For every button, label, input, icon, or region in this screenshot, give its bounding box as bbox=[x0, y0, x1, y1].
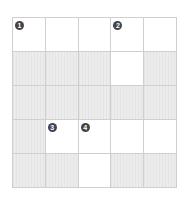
blocked-cell-r2c1 bbox=[13, 52, 46, 86]
clue-number-badge: 1 bbox=[15, 21, 24, 30]
blocked-cell-r5c1 bbox=[13, 154, 46, 188]
blocked-cell-r3c4 bbox=[111, 86, 144, 120]
grid-cell-r4c4[interactable] bbox=[111, 120, 144, 154]
blocked-cell-r5c4 bbox=[111, 154, 144, 188]
grid-cell-r4c5[interactable] bbox=[144, 120, 177, 154]
grid-cell-r2c4[interactable] bbox=[111, 52, 144, 86]
grid-cell-r4c2[interactable]: 3 bbox=[46, 120, 79, 154]
crossword-grid: 1 2 3 4 bbox=[12, 17, 177, 188]
blocked-cell-r2c2 bbox=[46, 52, 79, 86]
blocked-cell-r3c1 bbox=[13, 86, 46, 120]
blocked-cell-r4c1 bbox=[13, 120, 46, 154]
blocked-cell-r3c2 bbox=[46, 86, 79, 120]
blocked-cell-r2c3 bbox=[79, 52, 112, 86]
clue-number-badge: 3 bbox=[48, 123, 57, 132]
grid-cell-r5c3[interactable] bbox=[79, 154, 112, 188]
blocked-cell-r3c3 bbox=[79, 86, 112, 120]
grid-cell-r1c4[interactable]: 2 bbox=[111, 18, 144, 52]
blocked-cell-r5c2 bbox=[46, 154, 79, 188]
grid-cell-r4c3[interactable]: 4 bbox=[79, 120, 112, 154]
grid-cell-r1c5[interactable] bbox=[144, 18, 177, 52]
blocked-cell-r2c5 bbox=[144, 52, 177, 86]
grid-cell-r1c2[interactable] bbox=[46, 18, 79, 52]
blocked-cell-r5c5 bbox=[144, 154, 177, 188]
clue-number-badge: 4 bbox=[81, 123, 90, 132]
blocked-cell-r3c5 bbox=[144, 86, 177, 120]
clue-number-badge: 2 bbox=[113, 21, 122, 30]
grid-cell-r1c3[interactable] bbox=[79, 18, 112, 52]
grid-cell-r1c1[interactable]: 1 bbox=[13, 18, 46, 52]
